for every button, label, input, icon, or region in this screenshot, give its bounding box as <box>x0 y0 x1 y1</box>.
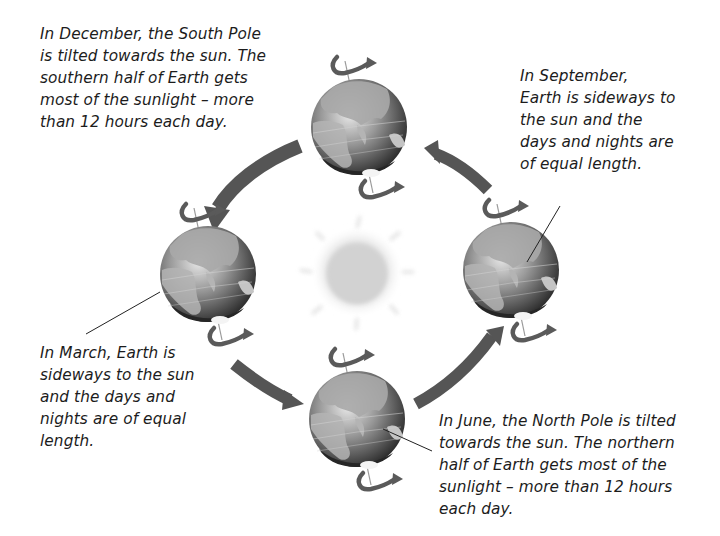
sun <box>300 216 414 330</box>
orbit-arrow-left-to-bottom <box>234 364 304 410</box>
orbit-arrow-bottom-to-right <box>416 326 504 404</box>
earth-september <box>463 200 559 340</box>
orbit-arrow-top-to-left <box>204 146 300 232</box>
caption-march: In March, Earth is sideways to the sun a… <box>40 342 230 452</box>
caption-december: In December, the South Pole is tilted to… <box>40 23 300 133</box>
leader-line-march <box>86 292 160 334</box>
earth-december <box>311 57 407 197</box>
orbit-arrow-right-to-top <box>424 140 488 190</box>
caption-september: In September, Earth is sideways to the s… <box>520 65 710 175</box>
earth-june <box>309 349 405 489</box>
earth-march <box>160 204 256 344</box>
caption-june: In June, the North Pole is tilted toward… <box>439 410 709 520</box>
